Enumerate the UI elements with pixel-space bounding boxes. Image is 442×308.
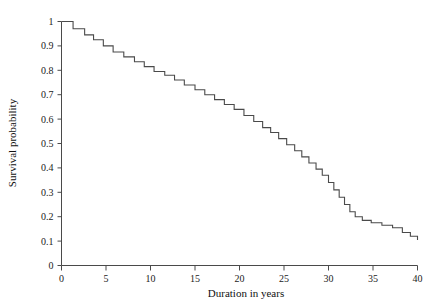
x-tick-label: 25 bbox=[279, 273, 289, 284]
x-tick-label: 5 bbox=[104, 273, 109, 284]
y-tick-label: 0 bbox=[49, 260, 54, 271]
y-tick-label: 0.4 bbox=[41, 162, 54, 173]
survival-curve-figure: 00.10.20.30.40.50.60.70.80.91 0510152025… bbox=[0, 0, 442, 308]
x-tick-label: 40 bbox=[413, 273, 423, 284]
y-tick-label: 0.7 bbox=[41, 89, 54, 100]
y-tick-label: 0.6 bbox=[41, 114, 54, 125]
x-axis-title: Duration in years bbox=[208, 287, 284, 299]
y-tick-label: 0.5 bbox=[41, 138, 54, 149]
x-tick-label: 15 bbox=[190, 273, 200, 284]
x-tick-label: 20 bbox=[235, 273, 245, 284]
x-tick-label: 30 bbox=[324, 273, 334, 284]
x-tick-label: 0 bbox=[59, 273, 64, 284]
y-tick-label: 1 bbox=[49, 16, 54, 27]
y-tick-label: 0.8 bbox=[41, 65, 54, 76]
y-tick-label: 0.9 bbox=[41, 40, 54, 51]
chart-background bbox=[0, 0, 442, 308]
chart-canvas: 00.10.20.30.40.50.60.70.80.91 0510152025… bbox=[0, 0, 442, 308]
x-tick-label: 35 bbox=[368, 273, 378, 284]
x-tick-label: 10 bbox=[146, 273, 156, 284]
y-axis-title: Survival probability bbox=[6, 98, 18, 187]
y-tick-label: 0.3 bbox=[41, 187, 54, 198]
y-tick-label: 0.1 bbox=[41, 236, 54, 247]
y-tick-label: 0.2 bbox=[41, 211, 54, 222]
